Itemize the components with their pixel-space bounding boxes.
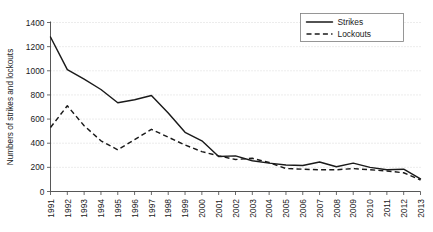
y-axis-tick-labels: 0200400600800100012001400 (26, 18, 45, 197)
legend-label-strikes: Strikes (338, 17, 364, 27)
y-tick-label: 1400 (26, 18, 45, 28)
x-tick-label: 1995 (113, 199, 123, 218)
y-tick-label: 400 (31, 138, 45, 148)
x-axis-tick-labels: 1991199219931994199519961997199819992000… (46, 199, 426, 218)
y-tick-label: 1200 (26, 42, 45, 52)
x-tick-label: 1993 (79, 199, 89, 218)
x-tick-label: 2001 (214, 199, 224, 218)
x-tick-label: 2006 (298, 199, 308, 218)
legend-label-lockouts: Lockouts (338, 29, 372, 39)
x-tick-label: 1998 (163, 199, 173, 218)
x-tick-label: 2002 (231, 199, 241, 218)
x-tick-label: 1992 (63, 199, 73, 218)
y-tick-label: 0 (40, 187, 45, 197)
x-tick-label: 1999 (180, 199, 190, 218)
series-line-strikes (51, 37, 421, 179)
chart-legend: StrikesLockouts (301, 14, 404, 42)
x-tick-label: 1991 (46, 199, 56, 218)
y-axis-title-label: Numbers of strikes and lockouts (6, 49, 15, 166)
x-tick-label: 2004 (264, 199, 274, 218)
y-tick-label: 1000 (26, 66, 45, 76)
x-tick-label: 2012 (399, 199, 409, 218)
line-chart: 0200400600800100012001400 19911992199319… (0, 0, 433, 232)
x-tick-label: 2007 (315, 199, 325, 218)
x-tick-label: 1997 (147, 199, 157, 218)
x-tick-label: 2008 (332, 199, 342, 218)
y-tick-label: 600 (31, 114, 45, 124)
y-axis-title: Numbers of strikes and lockouts (6, 49, 15, 166)
data-series (51, 37, 421, 180)
chart-container: 0200400600800100012001400 19911992199319… (0, 0, 433, 232)
y-tick-label: 200 (31, 162, 45, 172)
gridlines (51, 23, 421, 168)
x-tick-label: 2009 (348, 199, 358, 218)
x-tick-label: 2003 (248, 199, 258, 218)
x-tick-label: 2000 (197, 199, 207, 218)
series-line-lockouts (51, 106, 421, 180)
x-tick-label: 1996 (130, 199, 140, 218)
x-tick-label: 2011 (382, 199, 392, 217)
x-tick-label: 2010 (365, 199, 375, 218)
x-tick-label: 2005 (281, 199, 291, 218)
x-tick-label: 2013 (416, 199, 426, 218)
x-tick-label: 1994 (96, 199, 106, 218)
y-tick-label: 800 (31, 90, 45, 100)
